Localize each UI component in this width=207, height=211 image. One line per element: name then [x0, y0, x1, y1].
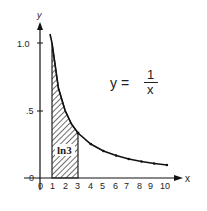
x-tick-1: 1: [50, 181, 55, 191]
x-tick-0: 0: [38, 181, 43, 191]
ln3-label: ln3: [57, 144, 72, 156]
x-axis-label: x: [185, 173, 190, 184]
x-tick-6: 6: [113, 181, 118, 191]
y-zero-label: 0: [29, 173, 34, 183]
x-tick-2: 2: [63, 181, 68, 191]
x-tick-10: 10: [160, 181, 170, 191]
y-tick-label-05: .5: [26, 106, 34, 116]
equation-numerator: 1: [147, 67, 154, 82]
x-tick-3: 3: [75, 181, 80, 191]
chart-canvas: ln3 x y 1.0 .5 0 0 1 2 3 4 5 6 7 8 9 10: [0, 0, 207, 211]
equation-label: y = 1 x: [107, 68, 167, 98]
equation-denominator: x: [147, 82, 154, 97]
x-tick-5: 5: [100, 181, 105, 191]
x-tick-labels: 0 1 2 3 4 5 6 7 8 9 10: [38, 181, 170, 191]
y-axis-label: y: [36, 10, 42, 20]
x-tick-4: 4: [88, 181, 93, 191]
x-tick-8: 8: [137, 181, 142, 191]
equation-lhs: y =: [110, 75, 129, 91]
x-axis-arrow: [174, 175, 183, 181]
curve-markers: [77, 132, 169, 167]
x-tick-9: 9: [148, 181, 153, 191]
x-tick-7: 7: [124, 181, 129, 191]
y-tick-label-1: 1.0: [17, 39, 30, 49]
y-axis-arrow: [37, 22, 43, 30]
